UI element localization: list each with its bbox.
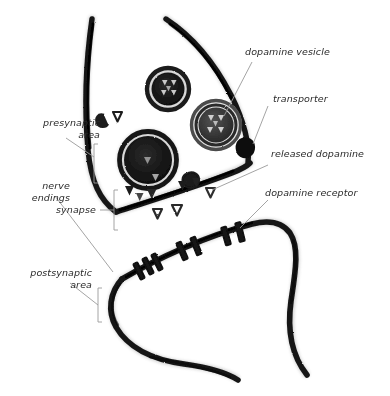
bracket-postsynaptic	[98, 288, 102, 322]
postsynaptic-membrane	[111, 222, 307, 380]
label-dopamine-receptor: dopamine receptor	[265, 187, 357, 199]
dopamine-vesicle-2	[190, 99, 242, 151]
label-nerve-endings: nerve endings	[0, 180, 70, 204]
label-nerve-endings-line2: endings	[0, 192, 70, 204]
label-presynaptic-area-line1: presynaptic	[0, 117, 100, 129]
synapse-diagram: dopamine vesicle transporter released do…	[0, 0, 390, 396]
leader-transporter	[253, 106, 268, 144]
label-transporter: transporter	[273, 93, 328, 105]
label-presynaptic-area-line2: area	[0, 129, 100, 141]
transporter-protein	[237, 138, 254, 157]
label-dopamine-vesicle: dopamine vesicle	[245, 46, 330, 58]
label-released-dopamine: released dopamine	[271, 148, 364, 160]
label-synapse: synapse	[0, 204, 96, 216]
dopamine-vesicle-3-fusing	[117, 129, 179, 191]
label-postsynaptic-area: postsynaptic area	[0, 267, 92, 291]
label-presynaptic-area: presynaptic area	[0, 117, 100, 141]
label-postsynaptic-area-line2: area	[0, 279, 92, 291]
label-postsynaptic-area-line1: postsynaptic	[0, 267, 92, 279]
label-nerve-endings-line1: nerve	[0, 180, 70, 192]
dopamine-vesicle-1	[146, 67, 190, 111]
